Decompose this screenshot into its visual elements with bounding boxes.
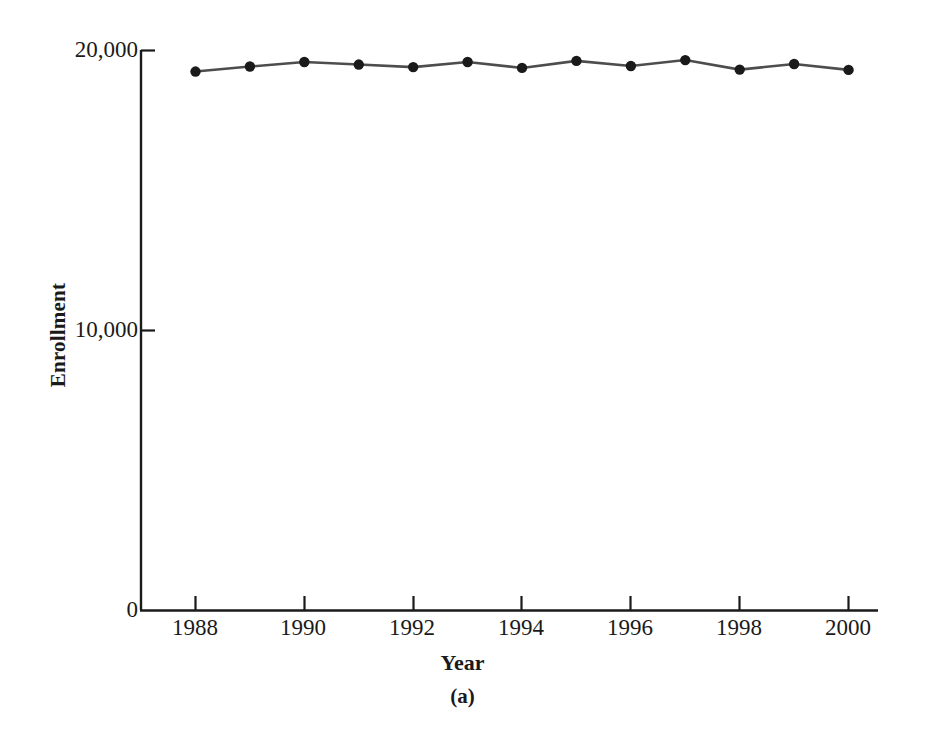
data-point	[843, 65, 853, 75]
series-markers-enrollment	[190, 55, 853, 77]
figure-subcaption: (a)	[0, 684, 925, 709]
y-axis-ticks	[141, 51, 155, 331]
data-point	[680, 55, 690, 65]
data-point	[408, 62, 418, 72]
plot-area	[0, 0, 925, 750]
chart-figure: Enrollment 20,000 10,000 0 1988 1990 199…	[0, 0, 925, 750]
data-point	[462, 57, 472, 67]
data-point	[245, 61, 255, 71]
data-point	[299, 57, 309, 67]
x-axis-title: Year	[0, 650, 925, 676]
data-point	[626, 61, 636, 71]
data-point	[517, 63, 527, 73]
axis-lines	[140, 50, 878, 611]
x-axis-ticks	[196, 596, 849, 610]
data-point	[354, 59, 364, 69]
data-point	[571, 56, 581, 66]
data-point	[735, 64, 745, 74]
data-point	[789, 59, 799, 69]
data-point	[190, 66, 200, 76]
